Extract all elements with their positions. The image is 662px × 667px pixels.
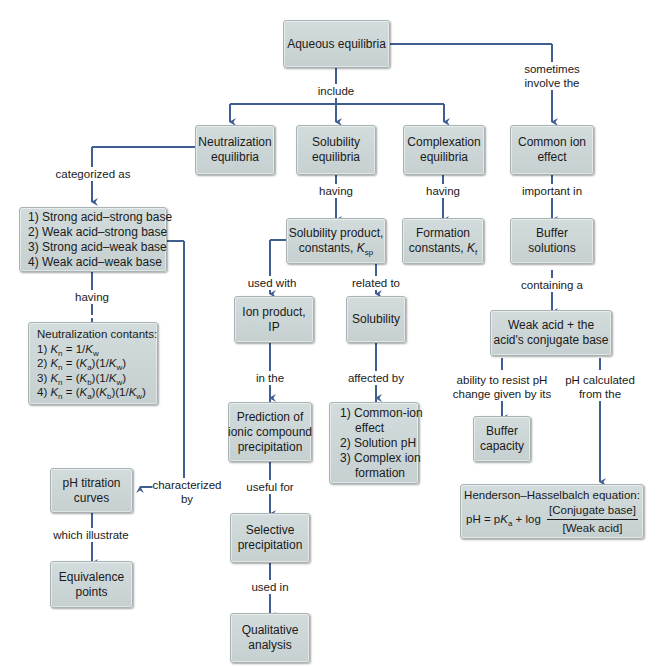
henderson-equation: pH = pKa + log [Conjugate base] [Weak ac… [464, 503, 640, 536]
node-selective-precipitation: Selective precipitation [230, 513, 310, 563]
kn-eq-2: 2) Kn = (Ka)(1/Kw) [37, 356, 157, 371]
node-weak-acid-conjugate-base: Weak acid + the acid's conjugate base [490, 310, 612, 356]
label-sometimes-involve: sometimes involve the [524, 62, 580, 90]
node-common-ion-effect: Common ion effect [510, 125, 594, 175]
kn-eq-3: 3) Kn = (Kb)(1/Kw) [37, 371, 157, 386]
node-ion-product: Ion product, IP [234, 296, 314, 343]
node-solubility-factors: 1) Common-ion effect 2) Solution pH 3) C… [329, 402, 419, 484]
concept-map: Aqueous equilibria include sometimes inv… [0, 0, 662, 667]
node-solubility-product-ksp: Solubility product, constants, Ksp [286, 218, 386, 264]
node-label: Aqueous equilibria [287, 37, 386, 52]
node-prediction-precipitation: Prediction of ionic compound precipitati… [228, 402, 312, 462]
label-useful-for: useful for [246, 480, 293, 494]
label-containing-a: containing a [521, 278, 583, 292]
node-neutralization-constants: Neutralization contants: 1) Kn = 1/Kw 2)… [28, 322, 158, 405]
label-in-the: in the [256, 371, 284, 385]
kf-line: constants, Kf [409, 241, 477, 256]
label-related-to: related to [352, 276, 400, 290]
kn-eq-1: 1) Kn = 1/Kw [37, 342, 157, 357]
node-aqueous-equilibria: Aqueous equilibria [283, 20, 390, 68]
label-used-in: used in [251, 580, 288, 594]
node-solubility: Solubility [346, 296, 406, 343]
node-complexation-equilibria: Complexation equilibria [403, 125, 485, 175]
label-having-complexation: having [426, 184, 460, 198]
node-ph-titration-curves: pH titration curves [50, 468, 133, 513]
node-buffer-capacity: Buffer capacity [473, 416, 531, 462]
node-henderson-hasselbalch: Henderson–Hasselbalch equation: pH = pKa… [460, 484, 644, 539]
node-formation-constants-kf: Formation constants, Kf [402, 218, 484, 264]
ksp-line: constants, Ksp [289, 241, 384, 256]
node-solubility-equilibria: Solubility equilibria [296, 125, 376, 175]
label-used-with: used with [248, 276, 297, 290]
henderson-fraction: [Conjugate base] [Weak acid] [547, 503, 638, 536]
node-qualitative-analysis: Qualitative analysis [230, 613, 310, 663]
label-characterized-by: characterized by [152, 478, 221, 506]
label-affected-by: affected by [348, 371, 404, 385]
node-equivalence-points: Equivalence points [50, 561, 133, 608]
label-ability-resist-ph: ability to resist pH change given by its [453, 373, 551, 401]
label-which-illustrate: which illustrate [53, 528, 128, 542]
kn-eq-4: 4) Kn = (Ka)(Kb)(1/Kw) [37, 385, 157, 400]
label-having-solubility: having [319, 184, 353, 198]
label-having-neutralization: having [75, 290, 109, 304]
label-ph-calculated: pH calculated from the [565, 373, 635, 401]
label-include: include [318, 84, 354, 98]
label-categorized-as: categorized as [56, 167, 131, 181]
node-neutralization-equilibria: Neutralization equilibria [195, 125, 275, 175]
node-acid-base-types: 1) Strong acid–strong base 2) Weak acid–… [19, 207, 167, 272]
label-important-in: important in [522, 184, 582, 198]
node-buffer-solutions: Buffer solutions [510, 218, 594, 264]
